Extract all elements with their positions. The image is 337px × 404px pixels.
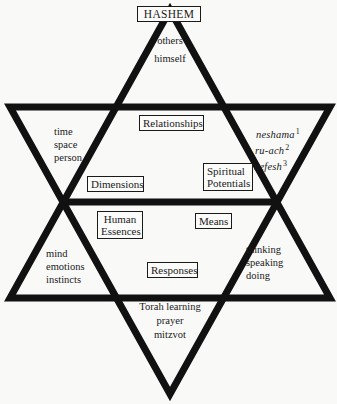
item-emotions: emotions [46,260,85,273]
upper-left-items: time space person [54,125,82,164]
star-diagram: HASHEM others himself Relationships time… [0,0,337,404]
item-mitzvot: mitzvot [120,328,220,342]
ru-ach-text: ru-ach [255,145,284,156]
item-doing: doing [246,269,283,282]
footnote-1: 1 [296,127,300,136]
means-text: Means [199,215,228,227]
dimensions-label: Dimensions [87,176,144,192]
potentials-text: Potentials [207,177,249,189]
spiritual-text: Spiritual [207,165,249,177]
responses-text: Responses [151,264,197,276]
essences-text: Essences [101,225,139,237]
item-himself: himself [140,52,200,65]
item-time: time [54,125,82,138]
relationships-label: Relationships [139,115,204,131]
top-items: others himself [140,34,200,65]
item-person: person [54,151,82,164]
footnote-3: 3 [283,159,287,168]
item-nefesh: nefesh3 [254,157,300,173]
hashem-label: HASHEM [137,6,201,22]
item-torah-learning: Torah learning [120,300,220,314]
means-label: Means [195,213,232,229]
human-text: Human [101,213,139,225]
item-prayer: prayer [120,314,220,328]
upper-right-items: neshama1 ru-ach2 nefesh3 [256,125,300,173]
spiritual-potentials-label: Spiritual Potentials [203,163,253,191]
relationships-text: Relationships [143,117,203,129]
item-instincts: instincts [46,273,85,286]
item-space: space [54,138,82,151]
footnote-2: 2 [285,143,289,152]
nefesh-text: nefesh [254,161,282,172]
responses-label: Responses [147,262,198,278]
human-essences-label: Human Essences [97,211,143,239]
item-mind: mind [46,247,85,260]
dimensions-text: Dimensions [91,178,144,190]
item-thinking: thinking [246,243,283,256]
hashem-text: HASHEM [144,8,194,20]
lower-right-items: thinking speaking doing [246,243,283,282]
bottom-items: Torah learning prayer mitzvot [120,300,220,342]
neshama-text: neshama [256,129,295,140]
item-speaking: speaking [246,256,283,269]
item-others: others [140,34,200,47]
lower-left-items: mind emotions instincts [46,247,85,286]
item-neshama: neshama1 [256,125,300,141]
item-ru-ach: ru-ach2 [255,141,300,157]
